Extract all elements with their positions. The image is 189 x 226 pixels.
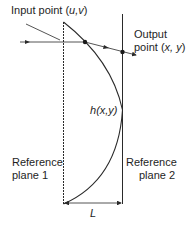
input-point-text: Input point (	[11, 4, 69, 16]
reference-plane-1-label-line1: Reference	[12, 156, 63, 169]
input-point-label: Input point (u,v)	[11, 4, 87, 17]
input-point-vars: u,v	[69, 4, 84, 16]
input-point-close: )	[84, 4, 88, 16]
output-point-vars: x, y	[165, 41, 182, 53]
output-point-label-line1: Output	[134, 28, 167, 41]
reference-plane-1-label-line2: plane 1	[12, 169, 48, 182]
output-point-dot	[120, 50, 124, 54]
refracted-ray	[85, 42, 136, 55]
height-function-label: h(x,y)	[90, 104, 118, 117]
length-label: L	[90, 207, 96, 220]
ray-arrow-icon	[25, 40, 30, 44]
surface-intersection-point	[83, 40, 87, 44]
reference-plane-2-label-line1: Reference	[126, 156, 177, 169]
height-func-args: (x,y)	[96, 104, 117, 116]
reference-plane-2-label-line2: plane 2	[139, 169, 175, 182]
output-point-close: )	[182, 41, 186, 53]
output-point-label-line2: point (x, y)	[134, 41, 185, 54]
input-leader-line	[26, 24, 60, 40]
output-point-text: point (	[134, 41, 165, 53]
ray-arrow-icon	[103, 45, 109, 49]
